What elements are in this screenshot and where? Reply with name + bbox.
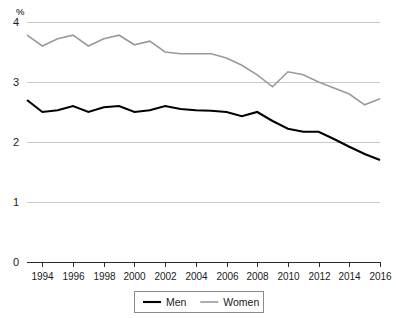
y-axis-tick-label: 4: [13, 16, 19, 28]
x-axis-tick-label: 2012: [308, 271, 331, 282]
legend-label-women: Women: [223, 296, 259, 308]
y-axis-tick-labels: 01234: [13, 16, 19, 268]
series-lines-group: [27, 35, 380, 160]
x-axis-tick-label: 2010: [277, 271, 300, 282]
x-axis-tick-label: 1994: [31, 271, 54, 282]
y-axis-tick-label: 3: [13, 76, 19, 88]
legend-label-men: Men: [166, 296, 187, 308]
x-axis-tick-label: 1998: [93, 271, 116, 282]
series-line-men: [27, 100, 380, 160]
line-chart: 01234 1994199619982000200220042006200820…: [0, 0, 396, 318]
chart-container: 01234 1994199619982000200220042006200820…: [0, 0, 396, 318]
x-axis-tick-label: 2004: [185, 271, 208, 282]
series-line-women: [27, 35, 380, 105]
chart-legend: MenWomen: [135, 292, 264, 313]
y-axis-unit-label: %: [16, 6, 25, 17]
gridlines-group: [27, 23, 380, 203]
y-axis-tick-label: 2: [13, 136, 19, 148]
x-axis-tick-label: 2006: [216, 271, 239, 282]
x-axis-tick-label: 2016: [369, 271, 392, 282]
y-axis-tick-label: 0: [13, 256, 19, 268]
x-axis-tick-label: 2002: [154, 271, 177, 282]
x-axis-tick-labels: 1994199619982000200220042006200820102012…: [31, 271, 392, 282]
y-axis-tick-label: 1: [13, 196, 19, 208]
x-axis-tick-label: 1996: [62, 271, 85, 282]
x-axis-tick-label: 2000: [123, 271, 146, 282]
x-axis-tick-label: 2014: [338, 271, 361, 282]
x-axis-tick-label: 2008: [246, 271, 269, 282]
